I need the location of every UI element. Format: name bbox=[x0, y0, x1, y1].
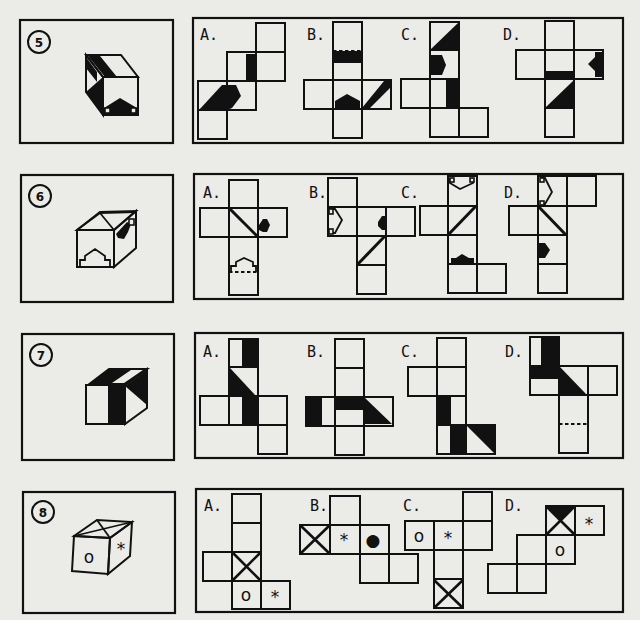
circle-symbol: o bbox=[241, 585, 251, 605]
problem-8-option-b[interactable]: B. * ● bbox=[300, 496, 418, 583]
option-label: B. bbox=[310, 497, 328, 515]
option-label: B. bbox=[307, 343, 325, 361]
problem-5-option-d[interactable]: D. bbox=[503, 21, 603, 137]
problem-8: 8 o * A. o * bbox=[23, 489, 623, 613]
asterisk-symbol: * bbox=[340, 530, 349, 550]
circle-symbol: o bbox=[555, 540, 565, 560]
problem-7-option-b[interactable]: B. bbox=[306, 339, 393, 455]
asterisk-symbol: * bbox=[117, 539, 126, 559]
problem-5-option-c[interactable]: C. bbox=[401, 22, 488, 137]
option-label: B. bbox=[309, 184, 327, 202]
problem-6: 6 A. bbox=[21, 174, 623, 302]
problem-7: 7 A. bbox=[22, 333, 623, 460]
option-label: D. bbox=[505, 343, 523, 361]
problem-6-cube-figure bbox=[77, 211, 136, 267]
problem-7-option-a[interactable]: A. bbox=[200, 339, 287, 454]
problem-6-option-a[interactable]: A. bbox=[200, 180, 287, 295]
option-label: A. bbox=[200, 26, 218, 44]
problem-5-cube-figure bbox=[86, 55, 138, 115]
option-label: C. bbox=[403, 497, 421, 515]
option-label: C. bbox=[401, 184, 419, 202]
option-label: D. bbox=[504, 184, 522, 202]
asterisk-symbol: * bbox=[271, 587, 280, 607]
option-label: D. bbox=[505, 497, 523, 515]
option-label: D. bbox=[503, 26, 521, 44]
problem-7-number-badge: 7 bbox=[30, 344, 52, 366]
filled-dot-symbol: ● bbox=[366, 530, 381, 550]
problem-7-cube-figure bbox=[86, 369, 147, 424]
problem-number: 5 bbox=[35, 36, 43, 50]
problem-number: 8 bbox=[39, 506, 47, 520]
asterisk-symbol: * bbox=[585, 514, 594, 534]
option-label: B. bbox=[307, 26, 325, 44]
problem-6-number-badge: 6 bbox=[29, 185, 51, 207]
problem-5-option-b[interactable]: B. bbox=[304, 22, 391, 138]
asterisk-symbol: * bbox=[444, 528, 453, 548]
problem-8-option-d[interactable]: D. * o bbox=[488, 497, 604, 593]
problem-6-option-c[interactable]: C. bbox=[401, 176, 506, 293]
problem-8-option-a[interactable]: A. o * bbox=[203, 494, 290, 609]
option-label: C. bbox=[401, 26, 419, 44]
problem-number: 7 bbox=[37, 349, 45, 363]
circle-symbol: o bbox=[84, 547, 94, 567]
problem-7-option-d[interactable]: D. bbox=[505, 337, 617, 453]
circle-symbol: o bbox=[414, 526, 424, 546]
puzzle-page: 5 A. bbox=[0, 0, 640, 620]
option-label: A. bbox=[203, 343, 221, 361]
problem-8-number-badge: 8 bbox=[32, 501, 54, 523]
problem-6-option-b[interactable]: B. bbox=[309, 178, 415, 294]
problem-8-option-c[interactable]: C. o * bbox=[403, 492, 492, 608]
option-label: A. bbox=[204, 497, 222, 515]
option-label: A. bbox=[203, 184, 221, 202]
problem-5-number-badge: 5 bbox=[28, 31, 50, 53]
problem-6-option-d[interactable]: D. bbox=[504, 176, 596, 293]
problem-8-cube-figure: o * bbox=[72, 520, 132, 574]
problem-5-option-a[interactable]: A. bbox=[198, 23, 285, 139]
option-label: C. bbox=[401, 343, 419, 361]
puzzle-sheet: 5 A. bbox=[0, 0, 640, 620]
problem-5: 5 A. bbox=[20, 18, 623, 143]
problem-7-option-c[interactable]: C. bbox=[401, 338, 495, 454]
problem-number: 6 bbox=[36, 190, 44, 204]
